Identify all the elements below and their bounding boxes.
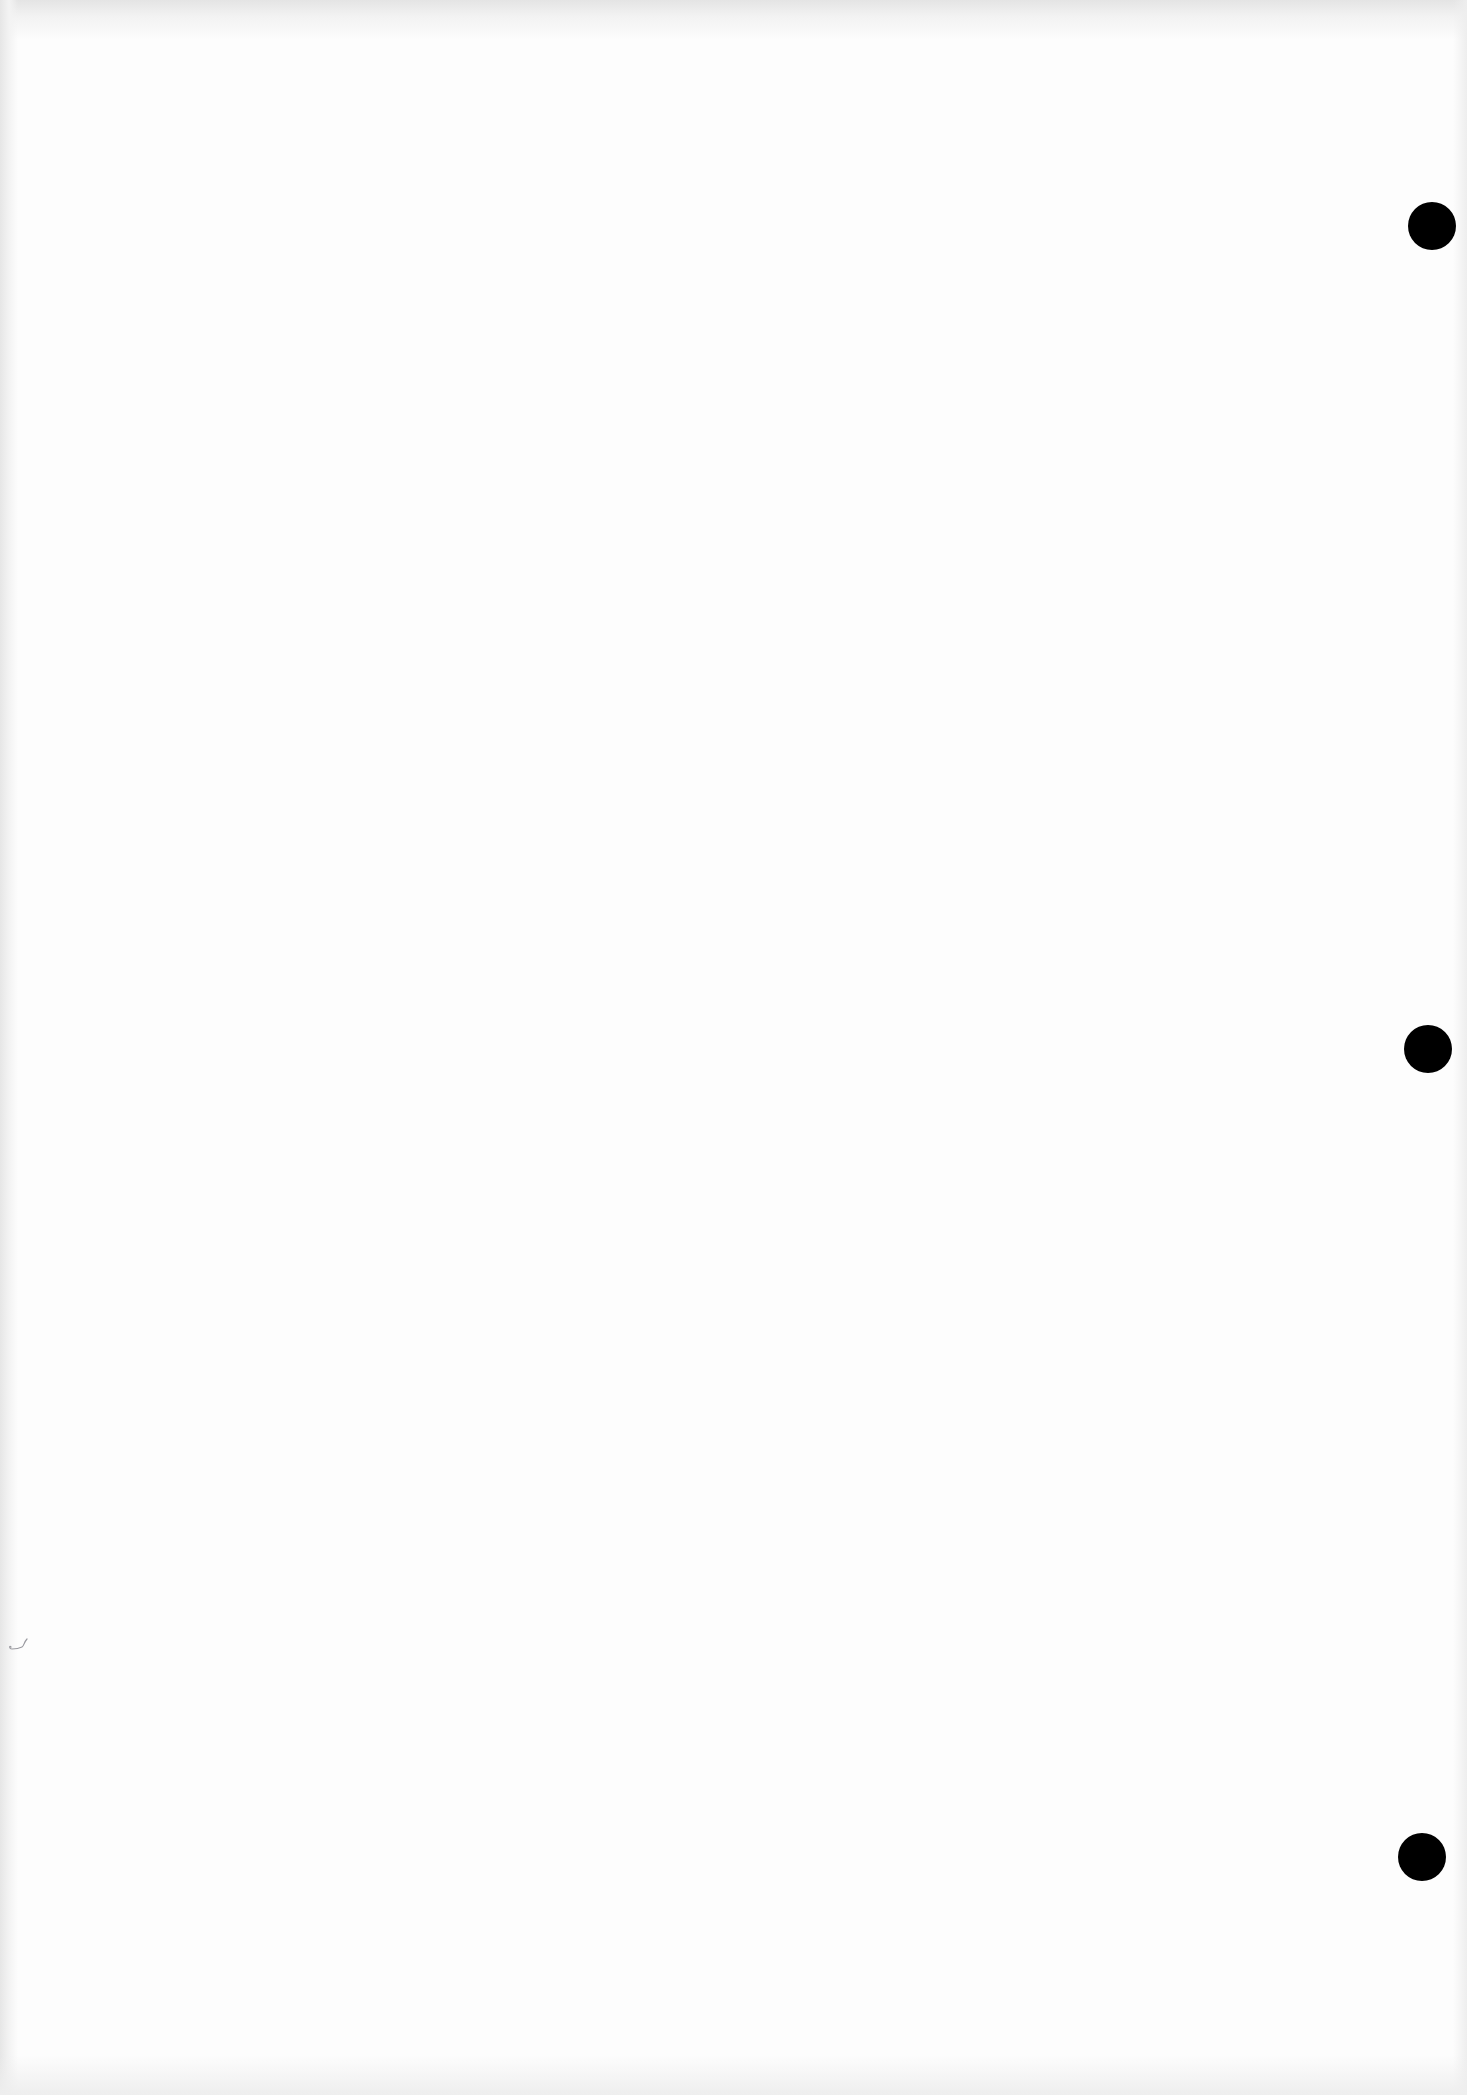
punch-hole-bottom [1398,1833,1446,1881]
scan-shadow-top [0,0,1467,40]
punch-hole-middle [1404,1025,1452,1073]
scan-shadow-left [0,0,18,2095]
scan-shadow-bottom [0,2055,1467,2095]
punch-hole-top [1408,202,1456,250]
stray-pen-mark-icon [6,1636,36,1652]
scanned-blank-page [0,0,1467,2095]
scan-shadow-right [1453,0,1467,2095]
